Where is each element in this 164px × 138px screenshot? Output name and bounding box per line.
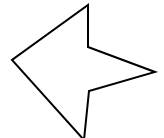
drawing-canvas — [0, 0, 164, 138]
shape-canvas-svg — [0, 0, 164, 138]
